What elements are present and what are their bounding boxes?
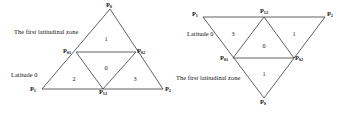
vertex-label-p02: P02	[295, 55, 303, 61]
vertex-label-p02: P02	[137, 48, 145, 54]
vertex-label-p2: P2	[165, 86, 171, 92]
cell-number-bottom: 1	[259, 71, 269, 77]
cell-number-center: 0	[101, 65, 111, 71]
vertex-sub: 0	[264, 101, 266, 106]
triangle-graphic-right	[175, 0, 350, 114]
cell-number-center: 0	[259, 43, 269, 49]
vertex-label-p0: P0	[260, 99, 266, 105]
cell-number-bottom-right: 3	[130, 76, 140, 82]
vertex-sub: 01	[224, 57, 228, 62]
vertex-sub: 02	[299, 57, 303, 62]
figure-root: The first latitudinal zone Latitude 0 P0…	[0, 0, 350, 114]
latitude-label-right: Latitude 0	[187, 31, 214, 37]
vertex-label-p12: P12	[260, 8, 268, 14]
cell-number-bottom-left: 2	[69, 76, 79, 82]
vertex-sub: 12	[264, 10, 268, 15]
vertex-sub: 02	[141, 50, 145, 55]
zone-label-right: The first latitudinal zone	[176, 75, 240, 81]
vertex-sub: 1	[34, 88, 36, 93]
vertex-label-p2: P2	[327, 11, 333, 17]
diagram-panel-left: The first latitudinal zone Latitude 0 P0…	[0, 0, 175, 114]
vertex-sub: 01	[67, 50, 71, 55]
zone-label-left: The first latitudinal zone	[14, 29, 78, 35]
vertex-sub: 1	[196, 13, 198, 18]
vertex-label-p12: P12	[99, 89, 107, 95]
vertex-sub: 2	[169, 88, 171, 93]
vertex-sub: 0	[110, 4, 112, 9]
vertex-sub: 12	[103, 91, 107, 96]
cell-number-top: 1	[101, 36, 111, 42]
midline-right	[264, 17, 294, 58]
vertex-sub: 2	[331, 13, 333, 18]
vertex-label-p01: P01	[63, 48, 71, 54]
vertex-label-p0: P0	[106, 2, 112, 8]
midline-left	[233, 17, 264, 58]
diagram-panel-right: Latitude 0 The first latitudinal zone P1…	[175, 0, 350, 114]
latitude-label-left: Latitude 0	[11, 72, 38, 78]
midline-left	[76, 52, 103, 89]
cell-number-top-left: 3	[228, 31, 238, 37]
vertex-label-p01: P01	[220, 55, 228, 61]
cell-number-top-right: 1	[289, 31, 299, 37]
vertex-label-p1: P1	[30, 86, 36, 92]
vertex-label-p1: P1	[192, 11, 198, 17]
triangle-graphic-left	[0, 0, 175, 114]
